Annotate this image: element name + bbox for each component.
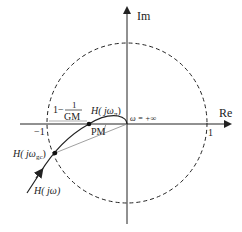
tick-pos-one: 1: [208, 127, 213, 138]
point-h-gc: [53, 151, 58, 156]
gm-den: GM: [64, 111, 80, 122]
im-label: Im: [137, 9, 151, 23]
gm-num: 1: [72, 100, 77, 110]
re-label: Re: [219, 106, 232, 120]
h-gc-label: H( jωgc): [12, 148, 46, 161]
gm-prefix: 1−: [53, 104, 64, 115]
nyquist-svg: Im Re −1 1 1− 1 GM H( jωπ) ω = +∞ PM H( …: [0, 0, 242, 232]
pm-label: PM: [91, 126, 106, 137]
h-pi-label: H( jωπ): [90, 105, 121, 118]
nyquist-diagram: Im Re −1 1 1− 1 GM H( jωπ) ω = +∞ PM H( …: [0, 0, 242, 232]
tick-neg-one: −1: [34, 126, 45, 137]
h-jw-label: H( jω): [33, 185, 61, 197]
direction-arrow: [36, 170, 42, 178]
omega-inf-label: ω = +∞: [130, 114, 156, 123]
